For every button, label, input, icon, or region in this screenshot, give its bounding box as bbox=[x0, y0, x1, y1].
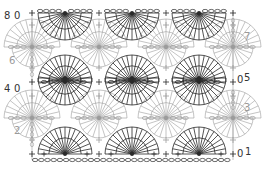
row-label: 0 bbox=[237, 75, 243, 85]
row-label: 3 bbox=[244, 103, 250, 113]
dark-stitch-layer bbox=[29, 9, 236, 161]
row-label: 6 bbox=[9, 56, 15, 66]
row-label: 8 bbox=[4, 11, 10, 21]
row-label: 0 bbox=[14, 84, 20, 94]
row-label: 0 bbox=[14, 11, 20, 21]
crochet-chart bbox=[0, 0, 266, 169]
row-label: 1 bbox=[245, 147, 251, 157]
row-label: 2 bbox=[14, 126, 20, 136]
row-label: 7 bbox=[244, 32, 250, 42]
row-label: 5 bbox=[244, 73, 250, 83]
row-label: 4 bbox=[4, 84, 10, 94]
row-label: 0 bbox=[237, 149, 243, 159]
